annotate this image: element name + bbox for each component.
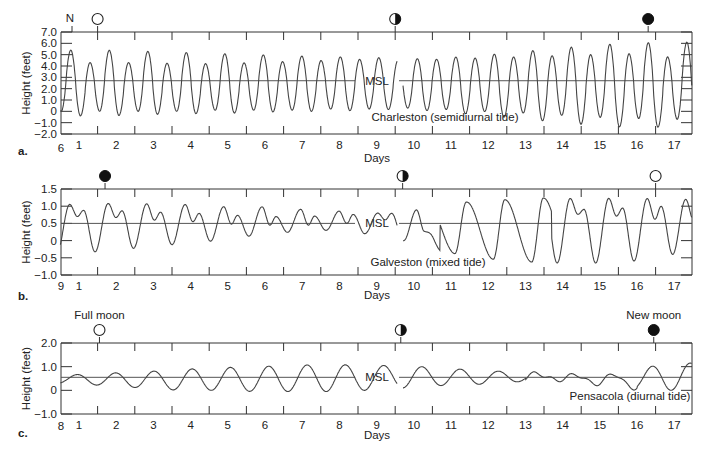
x-tick-label: 3: [150, 419, 156, 431]
y-tick-label: 2.0: [41, 83, 57, 95]
station-title: Pensacola (diurnal tide): [570, 390, 691, 402]
x-tick-label: 2: [113, 139, 119, 151]
y-tick-label: −1.0: [34, 269, 57, 281]
x-tick-label: 12: [482, 280, 495, 292]
station-title: Charleston (semidiurnal tide): [371, 111, 518, 123]
x-tick-label: 12: [482, 419, 495, 431]
x-tick-label: 3: [150, 280, 156, 292]
full-moon-icon: [650, 171, 661, 182]
x-tick-label: 5: [225, 139, 231, 151]
tide-panel-a: 7.06.05.04.03.02.01.00−1.0−2.01234567891…: [18, 12, 692, 164]
x-axis-title: Days: [364, 152, 390, 164]
first-quarter-moon-icon: [397, 171, 408, 182]
moon-phase-label: New moon: [626, 309, 681, 321]
moon-phase-label: Full moon: [74, 309, 125, 321]
x-tick-label: 1: [76, 280, 82, 292]
station-title: Galveston (mixed tide): [370, 256, 485, 268]
x-tick-label: 13: [519, 139, 532, 151]
north-marker: N: [66, 12, 74, 24]
y-tick-label: 1.5: [41, 183, 57, 195]
x-tick-label: 7: [299, 139, 305, 151]
msl-label: MSL: [365, 371, 389, 383]
x-tick-label: 14: [556, 139, 569, 151]
x-start-label: 6: [58, 142, 64, 154]
y-tick-label: −0.5: [34, 252, 57, 264]
new-moon-icon: [643, 14, 654, 25]
x-tick-label: 8: [336, 139, 342, 151]
y-tick-label: −1.0: [34, 408, 57, 420]
y-tick-label: 1.0: [41, 94, 57, 106]
x-tick-label: 17: [668, 419, 681, 431]
y-tick-label: 0: [51, 235, 57, 247]
x-tick-label: 15: [593, 419, 606, 431]
tide-panel-c: 2.01.00−1.012345678910111213141516178Day…: [18, 309, 692, 441]
x-tick-label: 15: [593, 280, 606, 292]
y-axis-title: Height (feet): [20, 347, 32, 410]
x-tick-label: 14: [556, 280, 569, 292]
tide-curve: [403, 198, 692, 263]
first-quarter-moon-icon: [390, 14, 401, 25]
x-axis-title: Days: [364, 289, 390, 301]
tide-curve: [60, 204, 397, 252]
x-axis-title: Days: [364, 429, 390, 441]
x-tick-label: 13: [519, 280, 532, 292]
y-tick-label: −2.0: [34, 128, 57, 140]
x-tick-label: 10: [407, 419, 420, 431]
x-tick-label: 11: [445, 419, 457, 431]
x-tick-label: 8: [336, 419, 342, 431]
x-tick-label: 4: [187, 419, 194, 431]
full-moon-icon: [92, 14, 103, 25]
y-tick-label: 6.0: [41, 37, 57, 49]
new-moon-icon: [100, 171, 111, 182]
msl-label: MSL: [365, 75, 389, 87]
y-tick-label: 7.0: [41, 26, 57, 38]
y-tick-label: 0.5: [41, 217, 57, 229]
panel-label: a.: [18, 145, 28, 157]
x-tick-label: 17: [668, 139, 681, 151]
x-tick-label: 16: [631, 419, 644, 431]
tide-charts: 7.06.05.04.03.02.01.00−1.0−2.01234567891…: [0, 0, 710, 459]
x-tick-label: 7: [299, 419, 305, 431]
x-tick-label: 11: [445, 280, 457, 292]
x-tick-label: 9: [373, 139, 379, 151]
first-quarter-moon-icon: [395, 325, 406, 336]
x-tick-label: 2: [113, 280, 119, 292]
panel-label: c.: [18, 427, 28, 439]
x-tick-label: 17: [668, 280, 681, 292]
x-tick-label: 4: [187, 280, 194, 292]
y-tick-label: 1.0: [41, 200, 57, 212]
x-tick-label: 6: [262, 139, 268, 151]
x-start-label: 8: [58, 420, 64, 432]
y-tick-label: 0: [51, 384, 57, 396]
y-tick-label: 5.0: [41, 49, 57, 61]
x-tick-label: 5: [225, 419, 231, 431]
x-tick-label: 6: [262, 280, 268, 292]
x-tick-label: 16: [631, 139, 644, 151]
y-axis-title: Height (feet): [20, 51, 32, 114]
new-moon-icon: [648, 325, 659, 336]
x-tick-label: 13: [519, 419, 532, 431]
x-start-label: 9: [58, 280, 64, 292]
x-tick-label: 12: [482, 139, 495, 151]
panel-label: b.: [18, 290, 28, 302]
tide-curve: [60, 50, 397, 116]
x-tick-label: 2: [113, 419, 119, 431]
x-tick-label: 8: [336, 280, 342, 292]
x-tick-label: 16: [631, 280, 644, 292]
y-axis-title: Height (feet): [20, 200, 32, 263]
y-tick-label: 0: [51, 105, 57, 117]
x-tick-label: 11: [445, 139, 457, 151]
x-tick-label: 14: [556, 419, 569, 431]
x-tick-label: 3: [150, 139, 156, 151]
x-tick-label: 6: [262, 419, 268, 431]
x-tick-label: 1: [76, 139, 82, 151]
x-tick-label: 5: [225, 280, 231, 292]
tide-panel-b: 1.51.00.50−0.5−1.01234567891011121314151…: [18, 171, 692, 303]
x-tick-label: 1: [76, 419, 82, 431]
full-moon-icon: [94, 325, 105, 336]
y-tick-label: 1.0: [41, 361, 57, 373]
tide-curve: [403, 363, 692, 390]
y-tick-label: 4.0: [41, 60, 57, 72]
tide-curve: [60, 365, 397, 392]
y-tick-label: −1.0: [34, 117, 57, 129]
